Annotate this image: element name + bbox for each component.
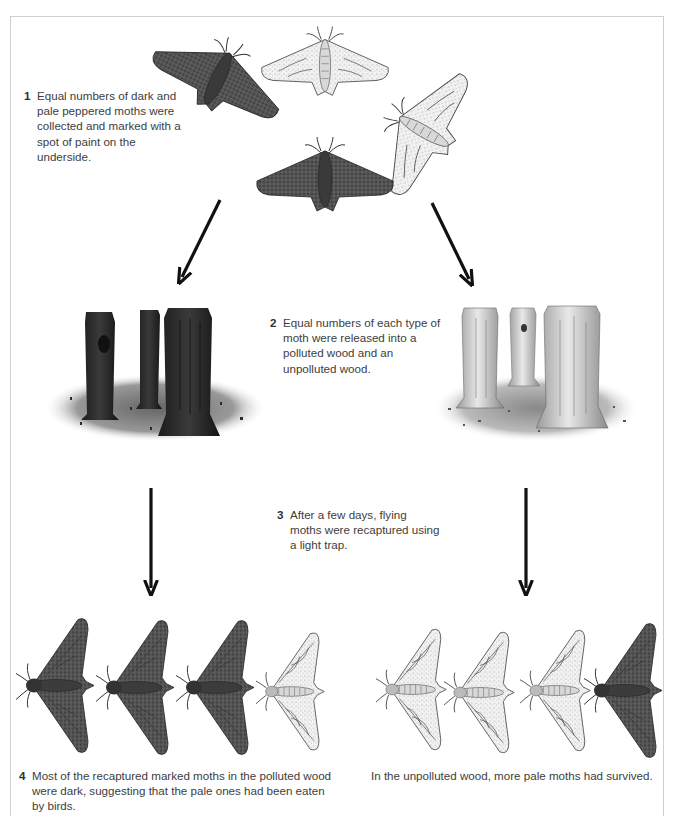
step-3-caption: 3 After a few days, flying moths were re… (290, 507, 440, 553)
step-text: After a few days, flying moths were reca… (290, 507, 440, 553)
unpolluted-wood-scene (428, 300, 638, 450)
unpolluted-result-caption: In the unpolluted wood, more pale moths … (371, 768, 661, 783)
recaptured-moth-dark (176, 615, 256, 760)
recaptured-moth-pale (444, 625, 516, 760)
polluted-wood-scene (40, 300, 265, 450)
recaptured-moth-pale (376, 622, 448, 757)
recaptured-moth-dark (96, 615, 176, 760)
result-text: In the unpolluted wood, more pale moths … (371, 768, 661, 783)
step-number: 2 (270, 315, 276, 330)
step-text: Equal numbers of each type of moth were … (283, 315, 443, 376)
step-text: Most of the recaptured marked moths in t… (32, 768, 332, 814)
recaptured-moth-dark (584, 618, 664, 763)
step-number: 3 (277, 507, 283, 522)
recaptured-moth-pale (520, 623, 592, 758)
step-number: 4 (19, 768, 25, 783)
step-4-caption: 4 Most of the recaptured marked moths in… (32, 768, 332, 814)
recaptured-moth-dark (16, 613, 96, 758)
recaptured-moth-pale (256, 624, 326, 759)
step-2-caption: 2 Equal numbers of each type of moth wer… (283, 315, 443, 376)
